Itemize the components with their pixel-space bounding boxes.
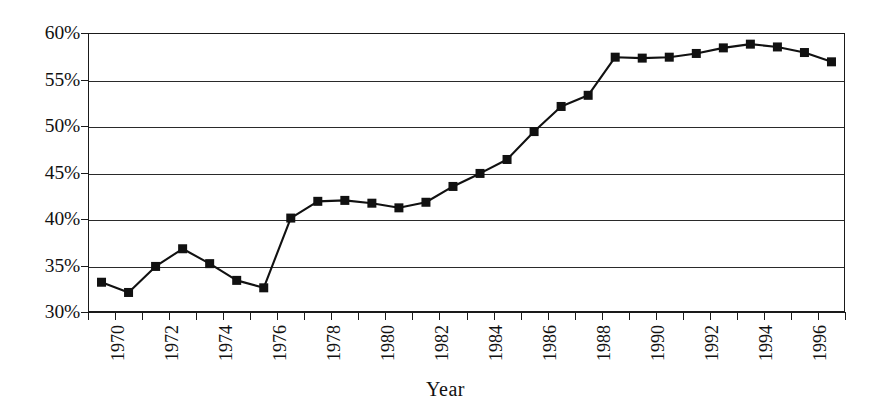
y-tick-label-50: 50% (45, 116, 80, 136)
x-tick-label-1986: 1986 (541, 325, 559, 361)
x-tick (277, 312, 278, 320)
x-tick-label-1974: 1974 (217, 325, 235, 361)
x-tick (656, 312, 657, 320)
y-axis-line (88, 33, 89, 312)
x-tick (683, 312, 684, 320)
x-tick (169, 312, 170, 320)
y-tick-35 (81, 266, 88, 267)
chart-container: 30%35%40%45%50%55%60% 197019721974197619… (0, 0, 891, 410)
y-tick-55 (81, 80, 88, 81)
x-tick (331, 312, 332, 320)
x-tick-label-1988: 1988 (595, 325, 613, 361)
x-tick (521, 312, 522, 320)
x-tick (494, 312, 495, 320)
x-tick (764, 312, 765, 320)
x-tick (467, 312, 468, 320)
gridline-50 (89, 127, 844, 128)
x-tick-label-1990: 1990 (649, 325, 667, 361)
gridline-45 (89, 174, 844, 175)
x-tick-label-1982: 1982 (433, 325, 451, 361)
x-tick-label-1994: 1994 (757, 325, 775, 361)
x-tick (412, 312, 413, 320)
y-tick-label-40: 40% (45, 209, 80, 229)
x-tick (629, 312, 630, 320)
y-tick-45 (81, 173, 88, 174)
gridline-40 (89, 220, 844, 221)
x-tick-label-1980: 1980 (379, 325, 397, 361)
x-tick (88, 312, 89, 320)
x-tick (845, 312, 846, 320)
x-tick (196, 312, 197, 320)
x-tick (439, 312, 440, 320)
y-tick-label-45: 45% (45, 163, 80, 183)
x-tick (818, 312, 819, 320)
y-axis-labels: 30%35%40%45%50%55%60% (0, 0, 80, 410)
x-axis-title: Year (0, 378, 891, 401)
y-tick-label-60: 60% (45, 23, 80, 43)
y-tick-50 (81, 126, 88, 127)
x-tick-label-1972: 1972 (163, 325, 181, 361)
x-tick (602, 312, 603, 320)
y-tick-60 (81, 33, 88, 34)
x-tick (223, 312, 224, 320)
x-tick-label-1976: 1976 (271, 325, 289, 361)
x-tick (358, 312, 359, 320)
x-tick-label-1970: 1970 (109, 325, 127, 361)
x-tick (737, 312, 738, 320)
x-tick (548, 312, 549, 320)
y-tick-label-35: 35% (45, 256, 80, 276)
x-tick-label-1978: 1978 (325, 325, 343, 361)
x-tick (710, 312, 711, 320)
plot-area (88, 33, 845, 312)
x-tick (791, 312, 792, 320)
x-tick (142, 312, 143, 320)
y-tick-30 (81, 312, 88, 313)
x-tick (304, 312, 305, 320)
x-tick-label-1996: 1996 (811, 325, 829, 361)
x-tick (250, 312, 251, 320)
x-tick (385, 312, 386, 320)
x-tick-label-1984: 1984 (487, 325, 505, 361)
y-tick-label-30: 30% (45, 302, 80, 322)
y-tick-label-55: 55% (45, 70, 80, 90)
gridline-35 (89, 267, 844, 268)
gridline-55 (89, 81, 844, 82)
x-tick-label-1992: 1992 (703, 325, 721, 361)
x-tick (575, 312, 576, 320)
y-tick-40 (81, 219, 88, 220)
x-tick (115, 312, 116, 320)
